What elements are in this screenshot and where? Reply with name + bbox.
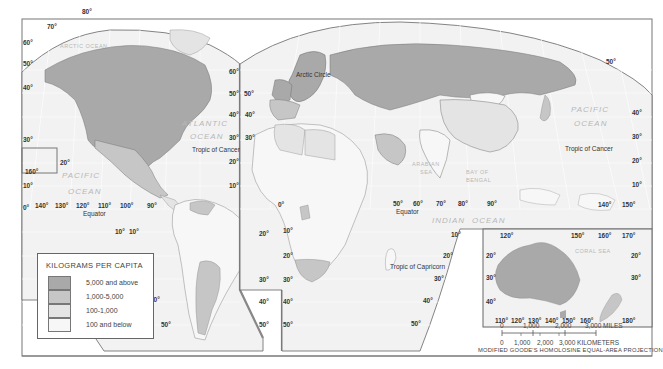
lat-label: 30° <box>283 276 293 283</box>
legend-swatch-100-below <box>48 318 71 332</box>
lat-label: 20° <box>60 159 70 166</box>
lat-label: 20° <box>632 157 642 164</box>
lon-label: 120° <box>76 202 90 209</box>
legend-label: 1,000-5,000 <box>86 293 123 300</box>
legend-swatch-100-1000 <box>48 304 71 318</box>
lat-label: 10° <box>451 231 461 238</box>
lon-label: 100° <box>120 202 134 209</box>
legend: KILOGRAMS PER CAPITA 5,000 and above 1,0… <box>37 253 154 339</box>
legend-label: 5,000 and above <box>86 279 138 286</box>
legend-swatch-1000-5000 <box>48 290 71 304</box>
australia-inset <box>483 229 652 327</box>
lon-label: 150° <box>571 232 585 239</box>
legend-swatch-5000-above <box>48 276 71 290</box>
lat-label: 20° <box>229 158 239 165</box>
lat-label: 40° <box>259 298 269 305</box>
lon-label: 120° <box>500 232 514 239</box>
scale-label: 0 <box>500 322 504 329</box>
lat-label: 20° <box>283 252 293 259</box>
lon-label: 140° <box>598 201 612 208</box>
bay-of-bengal-label: BENGAL <box>466 177 491 183</box>
lon-label: 170° <box>622 232 636 239</box>
pacific-ocean-label: PACIFIC <box>62 171 100 180</box>
lat-label: 40° <box>632 109 642 116</box>
lat-label: 50° <box>606 58 616 65</box>
indian-ocean-label: INDIAN <box>432 216 465 225</box>
pacific-ocean-label: OCEAN <box>68 187 101 196</box>
lat-label: 30° <box>434 275 444 282</box>
lon-label: 90° <box>487 200 497 207</box>
scale-label: 3,000 KILOMETERS <box>559 339 619 346</box>
atlantic-ocean-label: OCEAN <box>190 132 223 141</box>
lat-label: 50° <box>244 90 254 97</box>
lon-label: 80° <box>458 200 468 207</box>
scale-label: 1,000 <box>523 322 539 329</box>
tropic-of-capricorn-label: Tropic of Capricorn <box>390 263 445 271</box>
tropic-of-cancer-label: Tropic of Cancer <box>192 146 241 154</box>
lat-label: 30° <box>486 274 496 281</box>
lat-label: 50° <box>229 90 239 97</box>
lat-label: 40° <box>23 84 33 91</box>
lon-label: 110° <box>98 202 111 209</box>
lat-label: 40° <box>486 298 496 305</box>
lon-label: 130° <box>55 202 69 209</box>
pacific-ocean-label: OCEAN <box>574 119 607 128</box>
lon-label: 140° <box>35 202 49 209</box>
lon-label: 60° <box>413 200 423 207</box>
lat-label: 10° <box>23 182 33 189</box>
lat-label: 30° <box>632 133 642 140</box>
lat-label: 20° <box>486 252 496 259</box>
legend-label: 100-1,000 <box>86 307 118 314</box>
lat-label: 20° <box>631 252 641 259</box>
lat-label: 10° <box>632 181 642 188</box>
projection-label: MODIFIED GOODE'S HOMOLOSINE EQUAL-AREA P… <box>478 347 663 353</box>
coral-sea-label: CORAL SEA <box>575 248 611 254</box>
lat-label: 60° <box>229 68 239 75</box>
scale-label: 1,000 <box>514 339 530 346</box>
scale: 0 1,000 2,000 3,000 MILES 0 1,000 2,000 … <box>480 322 663 362</box>
bay-of-bengal-label: BAY OF <box>466 169 489 175</box>
indian-ocean-label: OCEAN <box>472 216 505 225</box>
lat-label: 20° <box>259 230 269 237</box>
lat-label: 10° <box>129 228 139 235</box>
lat-label: 20° <box>443 252 453 259</box>
lon-label: 160° <box>598 232 612 239</box>
lon-label: 70° <box>436 200 446 207</box>
lon-label: 150° <box>622 201 636 208</box>
legend-title: KILOGRAMS PER CAPITA <box>46 261 143 270</box>
lat-label: 10° <box>115 228 125 235</box>
lat-label: 30° <box>631 274 641 281</box>
arctic-circle-label: Arctic Circle <box>296 71 331 78</box>
lat-label: 80° <box>82 8 92 15</box>
lat-label: 30° <box>245 134 255 141</box>
tropic-of-cancer-label: Tropic of Cancer <box>565 145 614 153</box>
lat-label: 30° <box>259 276 269 283</box>
lat-label: 0° <box>23 204 30 211</box>
lon-label: 90° <box>147 202 157 209</box>
legend-label: 100 and below <box>86 321 132 328</box>
equator-label: Equator <box>396 208 420 216</box>
lat-label: 50° <box>23 60 33 67</box>
atlantic-ocean-label: ATLANTIC <box>181 119 228 128</box>
lat-label: 50° <box>411 320 421 327</box>
lon-label: 0° <box>278 201 285 208</box>
lat-label: 40° <box>245 111 255 118</box>
lat-label: 50° <box>161 321 171 328</box>
lat-label: 30° <box>229 134 239 141</box>
lon-label: 160° <box>25 168 39 175</box>
lat-label: 70° <box>47 23 57 30</box>
pacific-ocean-label: PACIFIC <box>571 105 609 114</box>
arabian-sea-label: ARABIAN <box>412 161 440 167</box>
lat-label: 10° <box>229 182 239 189</box>
scale-label: 2,000 <box>555 322 571 329</box>
equator-label: Equator <box>83 210 107 218</box>
lat-label: 40° <box>229 111 239 118</box>
lon-label: 50° <box>393 200 403 207</box>
lat-label: 50° <box>259 321 269 328</box>
lat-label: 50° <box>283 321 293 328</box>
lat-label: 10° <box>283 227 293 234</box>
lat-label: 40° <box>283 298 293 305</box>
arctic-ocean-label: ARCTIC OCEAN <box>60 43 108 49</box>
scale-label: 2,000 <box>537 339 553 346</box>
lat-label: 60° <box>23 39 33 46</box>
